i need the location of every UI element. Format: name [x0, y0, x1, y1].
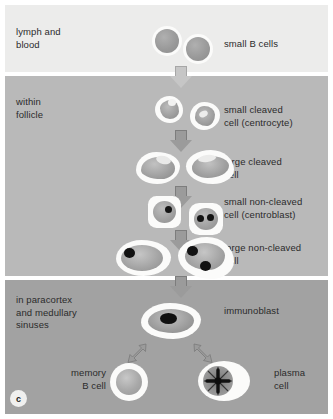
compartment-label-lymph-and-blood: lymph and blood: [16, 26, 61, 51]
arrow-down-1: [170, 66, 192, 90]
chromatin-spokes: [203, 366, 233, 396]
nucleus: [153, 201, 176, 223]
nucleolus: [187, 246, 198, 256]
cell-small-non-cleaved-1: [148, 196, 181, 228]
stage-label-small-b-cells: small B cells: [224, 38, 278, 51]
cell-plasma: [198, 361, 250, 401]
nucleolus: [200, 261, 211, 271]
cell-small-b-1: [152, 26, 182, 56]
panel-letter: c: [10, 390, 27, 407]
cell-small-cleaved-1: [155, 96, 183, 123]
nucleolus-prominent: [160, 313, 177, 324]
cell-large-non-cleaved-2: [178, 237, 234, 279]
stage-label-plasma-cell: plasma cell: [274, 367, 305, 392]
cell-large-non-cleaved-1: [116, 240, 171, 276]
cell-small-cleaved-2: [190, 102, 220, 130]
stage-label-memory-b-cell: memory B cell: [44, 367, 106, 392]
cell-memory-b: [110, 363, 148, 401]
nucleus: [116, 369, 142, 395]
nucleus: [155, 29, 179, 53]
b-cell-differentiation-diagram: lymph and blood within follicle in parac…: [0, 0, 333, 419]
nucleolus: [207, 214, 214, 221]
stage-label-immunoblast: immunoblast: [224, 305, 279, 318]
nucleus: [186, 37, 210, 61]
nucleolus: [124, 248, 135, 258]
compartment-label-within-follicle: within follicle: [16, 96, 43, 121]
compartment-label-paracortex-medullary-sinuses: in paracortex and medullary sinuses: [16, 294, 77, 332]
nucleus-clock-face: [203, 366, 233, 396]
stage-label-small-non-cleaved-cell: small non-cleaved cell (centroblast): [224, 196, 302, 221]
cell-large-cleaved-2: [186, 150, 234, 184]
nuclear-cleft: [168, 99, 176, 106]
cell-large-cleaved-1: [136, 152, 180, 184]
arrow-down-5: [170, 276, 192, 300]
stage-label-large-non-cleaved-cell: large non-cleaved cell: [224, 242, 301, 267]
nucleolus: [197, 215, 204, 222]
nucleolus: [165, 206, 172, 213]
stage-label-small-cleaved-cell: small cleaved cell (centrocyte): [224, 104, 293, 129]
cell-small-non-cleaved-2: [189, 203, 223, 235]
cell-small-b-2: [183, 34, 213, 64]
cell-immunoblast: [141, 303, 201, 339]
